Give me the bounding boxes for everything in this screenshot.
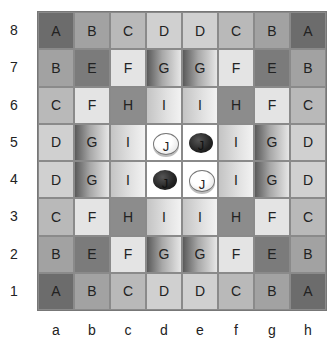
square-c4[interactable]: I (110, 161, 146, 198)
square-a8[interactable]: A (38, 12, 74, 49)
square-h2[interactable]: B (290, 236, 326, 273)
square-a1[interactable]: A (38, 273, 74, 310)
square-f4[interactable]: I (218, 161, 254, 198)
square-g8[interactable]: B (254, 12, 290, 49)
square-g2[interactable]: E (254, 236, 290, 273)
square-b3[interactable]: F (74, 198, 110, 235)
square-label: I (198, 209, 202, 225)
square-f6[interactable]: H (218, 87, 254, 124)
square-g7[interactable]: E (254, 49, 290, 86)
square-b7[interactable]: E (74, 49, 110, 86)
square-e7[interactable]: G (182, 49, 218, 86)
game-board[interactable]: ABCDDCBABEFGGFEBCFHIIHFCDGIJJIGDDGIJJIGD… (38, 12, 326, 310)
square-f5[interactable]: I (218, 124, 254, 161)
file-label-h: h (290, 322, 326, 338)
square-c7[interactable]: F (110, 49, 146, 86)
white-piece[interactable]: J (189, 170, 215, 192)
square-g6[interactable]: F (254, 87, 290, 124)
square-e5[interactable]: J (182, 124, 218, 161)
square-label: F (268, 97, 277, 113)
square-d3[interactable]: I (146, 198, 182, 235)
piece-label: J (198, 138, 205, 153)
square-label: G (195, 60, 206, 76)
square-c8[interactable]: C (110, 12, 146, 49)
file-label-c: c (110, 322, 146, 338)
white-piece[interactable]: J (153, 133, 179, 155)
square-h1[interactable]: A (290, 273, 326, 310)
square-g3[interactable]: F (254, 198, 290, 235)
square-label: D (195, 283, 205, 299)
square-label: F (88, 209, 97, 225)
square-g1[interactable]: B (254, 273, 290, 310)
square-d5[interactable]: J (146, 124, 182, 161)
square-label: F (232, 246, 241, 262)
square-label: C (231, 23, 241, 39)
square-b1[interactable]: B (74, 273, 110, 310)
square-d4[interactable]: J (146, 161, 182, 198)
square-e4[interactable]: J (182, 161, 218, 198)
square-label: F (124, 60, 133, 76)
square-label: D (303, 172, 313, 188)
square-b5[interactable]: G (74, 124, 110, 161)
square-g5[interactable]: G (254, 124, 290, 161)
square-e3[interactable]: I (182, 198, 218, 235)
square-f2[interactable]: F (218, 236, 254, 273)
file-label-d: d (146, 322, 182, 338)
square-label: E (267, 60, 276, 76)
square-label: E (87, 60, 96, 76)
square-label: B (303, 60, 312, 76)
square-a6[interactable]: C (38, 87, 74, 124)
rank-label-2: 2 (6, 246, 22, 262)
black-piece[interactable]: J (189, 133, 213, 153)
square-d7[interactable]: G (146, 49, 182, 86)
square-a5[interactable]: D (38, 124, 74, 161)
square-e8[interactable]: D (182, 12, 218, 49)
square-f3[interactable]: H (218, 198, 254, 235)
square-label: C (123, 23, 133, 39)
square-label: B (51, 246, 60, 262)
square-f1[interactable]: C (218, 273, 254, 310)
square-h6[interactable]: C (290, 87, 326, 124)
rank-label-7: 7 (6, 59, 22, 75)
square-c6[interactable]: H (110, 87, 146, 124)
square-h7[interactable]: B (290, 49, 326, 86)
square-label: F (88, 97, 97, 113)
square-label: F (268, 209, 277, 225)
square-h3[interactable]: C (290, 198, 326, 235)
square-a4[interactable]: D (38, 161, 74, 198)
square-c1[interactable]: C (110, 273, 146, 310)
square-a2[interactable]: B (38, 236, 74, 273)
square-c2[interactable]: F (110, 236, 146, 273)
square-f8[interactable]: C (218, 12, 254, 49)
square-h4[interactable]: D (290, 161, 326, 198)
square-b4[interactable]: G (74, 161, 110, 198)
square-c3[interactable]: H (110, 198, 146, 235)
square-f7[interactable]: F (218, 49, 254, 86)
piece-label: J (162, 176, 169, 191)
square-h8[interactable]: A (290, 12, 326, 49)
square-b6[interactable]: F (74, 87, 110, 124)
square-a3[interactable]: C (38, 198, 74, 235)
square-label: B (267, 283, 276, 299)
square-g4[interactable]: G (254, 161, 290, 198)
square-label: H (123, 209, 133, 225)
square-d1[interactable]: D (146, 273, 182, 310)
black-piece[interactable]: J (153, 170, 177, 190)
square-b8[interactable]: B (74, 12, 110, 49)
square-label: F (124, 246, 133, 262)
square-h5[interactable]: D (290, 124, 326, 161)
square-a7[interactable]: B (38, 49, 74, 86)
piece-label: J (199, 177, 206, 192)
square-label: H (231, 97, 241, 113)
square-d8[interactable]: D (146, 12, 182, 49)
square-e1[interactable]: D (182, 273, 218, 310)
square-e2[interactable]: G (182, 236, 218, 273)
square-d6[interactable]: I (146, 87, 182, 124)
rank-label-4: 4 (6, 171, 22, 187)
square-label: I (198, 97, 202, 113)
square-b2[interactable]: E (74, 236, 110, 273)
square-label: I (162, 209, 166, 225)
square-e6[interactable]: I (182, 87, 218, 124)
square-d2[interactable]: G (146, 236, 182, 273)
square-c5[interactable]: I (110, 124, 146, 161)
